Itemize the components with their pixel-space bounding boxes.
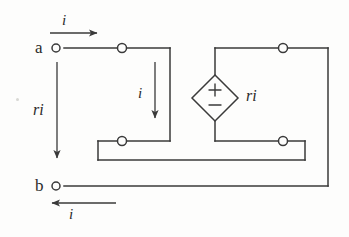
dependent-source-diamond <box>192 75 238 121</box>
terminal-b-node <box>52 182 60 190</box>
node-mid-right <box>279 137 288 146</box>
terminal-a-node <box>52 44 60 52</box>
circuit-schematic-canvas <box>0 0 349 237</box>
node-top-right <box>279 44 288 53</box>
input-current-label: i <box>62 13 66 28</box>
terminal-b-label: b <box>35 177 44 194</box>
node-top-left <box>118 44 127 53</box>
dependent-source-label: ri <box>246 88 257 104</box>
return-current-label: i <box>69 207 73 222</box>
circuit-diagram: a b i i ri i ri <box>0 0 349 237</box>
terminal-a-label: a <box>35 39 43 56</box>
voltage-drop-label: ri <box>33 102 44 118</box>
branch-current-label: i <box>138 86 142 101</box>
node-mid-left <box>118 137 127 146</box>
